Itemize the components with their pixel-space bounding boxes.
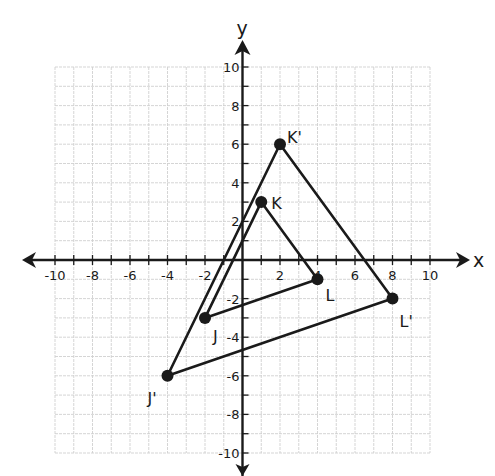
diagram-svg: xy -10-8-6-4-2246810108642-2-4-6-8-10 JK… — [0, 0, 495, 476]
y-axis-label: y — [237, 17, 248, 39]
axes: xy — [22, 17, 484, 476]
x-tick-label: -2 — [199, 268, 212, 283]
y-tick-label: -4 — [227, 330, 240, 345]
y-tick-label: -10 — [218, 446, 239, 461]
x-axis-label: x — [473, 249, 484, 271]
y-tick-label: 4 — [231, 176, 239, 191]
y-tick-label: -2 — [227, 292, 240, 307]
x-tick-label: -4 — [161, 268, 174, 283]
y-tick-label: -6 — [227, 369, 240, 384]
x-tick-label: 6 — [351, 268, 359, 283]
point-k-prime-dot-icon — [274, 138, 286, 150]
coordinate-plane: xy -10-8-6-4-2246810108642-2-4-6-8-10 JK… — [0, 0, 495, 476]
point-l-prime-dot-icon — [387, 293, 399, 305]
point-j-dot-icon — [199, 312, 211, 324]
x-tick-label: 10 — [422, 268, 439, 283]
x-tick-label: -6 — [124, 268, 137, 283]
point-l-prime-label: L' — [400, 312, 413, 331]
point-l-dot-icon — [312, 273, 324, 285]
x-tick-label: 8 — [388, 268, 396, 283]
point-j-prime-label: J' — [147, 389, 157, 408]
x-tick-label: -10 — [44, 268, 65, 283]
y-tick-label: 8 — [231, 99, 239, 114]
point-k-prime-label: K' — [287, 128, 302, 147]
point-l-label: L — [326, 286, 335, 305]
point-k-label: K — [271, 194, 282, 213]
y-tick-label: 2 — [231, 214, 239, 229]
x-tick-label: -8 — [86, 268, 99, 283]
x-tick-label: 2 — [276, 268, 284, 283]
point-k-dot-icon — [255, 196, 267, 208]
point-j-label: J — [212, 327, 218, 346]
point-j-prime-dot-icon — [162, 370, 174, 382]
y-tick-label: -8 — [227, 407, 240, 422]
y-tick-label: 6 — [231, 137, 239, 152]
y-tick-label: 10 — [223, 60, 240, 75]
